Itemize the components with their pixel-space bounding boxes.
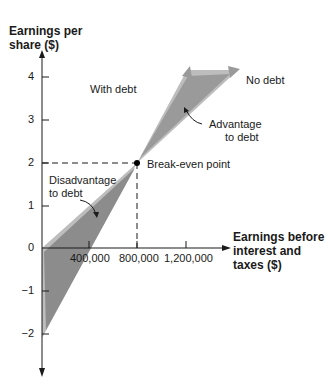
x-tick-label: 400,000 xyxy=(70,252,110,264)
with-debt-label: With debt xyxy=(90,83,136,96)
x-axis-title-line2: interest and xyxy=(233,245,301,258)
advantage-label-line2: to debt xyxy=(225,131,259,144)
x-axis-title-line3: taxes ($) xyxy=(233,259,282,272)
x-tick-label: 1,200,000 xyxy=(164,252,213,264)
y-tick-label: 2 xyxy=(14,156,34,168)
disadvantage-label-line2: to debt xyxy=(49,187,83,200)
y-axis-down-arrow-icon xyxy=(39,368,45,377)
x-axis-title-line1: Earnings before xyxy=(233,231,324,244)
break-even-point xyxy=(134,160,140,166)
break-even-label: Break-even point xyxy=(147,158,230,171)
no-debt-label: No debt xyxy=(246,74,285,87)
y-tick-label: −2 xyxy=(14,327,34,339)
with-debt-arrow-icon xyxy=(182,66,192,78)
disadvantage-label-line1: Disadvantage xyxy=(49,174,116,187)
x-tick-label: 800,000 xyxy=(119,252,159,264)
y-axis-title-line2: share ($) xyxy=(9,39,59,52)
x-axis-arrow-icon xyxy=(222,245,231,251)
y-axis-title-line1: Earnings per xyxy=(9,25,82,38)
y-tick-label: 4 xyxy=(14,70,34,82)
advantage-wedge-dark xyxy=(140,74,230,158)
y-tick-label: 0 xyxy=(14,241,34,253)
y-tick-label: 3 xyxy=(14,113,34,125)
advantage-label-line1: Advantage xyxy=(209,118,262,131)
y-tick-label: −1 xyxy=(14,284,34,296)
y-tick-label: 1 xyxy=(14,199,34,211)
no-debt-arrow-icon xyxy=(228,66,240,78)
